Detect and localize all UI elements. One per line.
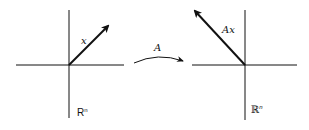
domain-space-label: Rn	[77, 107, 88, 118]
vector-x-arrow	[69, 26, 108, 65]
linear-map-diagram: x Rn A Ax ℝn	[0, 0, 309, 130]
vector-x-label: x	[81, 35, 87, 46]
right-axes: Ax ℝn	[192, 10, 297, 120]
codomain-space-label: ℝn	[251, 104, 263, 115]
vector-ax-arrow	[195, 11, 245, 65]
vector-ax-label: Ax	[221, 24, 235, 35]
map-label: A	[153, 42, 161, 53]
left-axes: x Rn	[16, 10, 124, 118]
map-arrow: A	[134, 42, 183, 63]
